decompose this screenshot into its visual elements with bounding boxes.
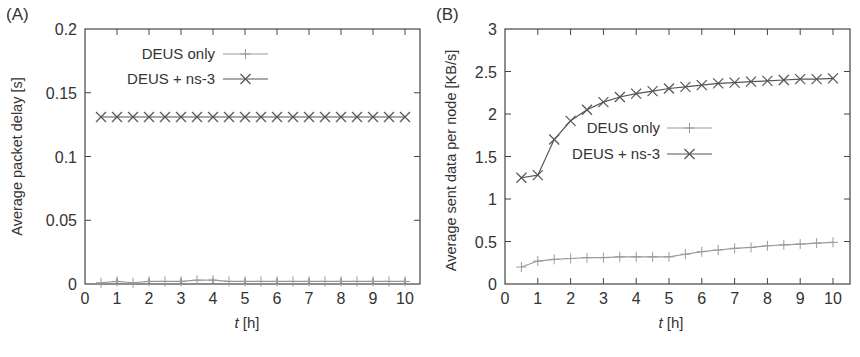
x-tick-label: 4 bbox=[209, 290, 218, 307]
legend-label: DEUS only bbox=[587, 119, 661, 136]
x-tick-label: 7 bbox=[305, 290, 314, 307]
x-tick-label: 9 bbox=[369, 290, 378, 307]
series-deus-only bbox=[516, 237, 838, 272]
series-line bbox=[521, 242, 833, 267]
x-axis-label: t [h] bbox=[234, 314, 259, 331]
legend-label: DEUS + ns-3 bbox=[127, 70, 215, 87]
x-tick-label: 4 bbox=[632, 290, 641, 307]
plot-frame bbox=[505, 29, 850, 284]
x-tick-label: 8 bbox=[337, 290, 346, 307]
legend-label: DEUS + ns-3 bbox=[572, 145, 660, 162]
y-tick-label: 0.2 bbox=[55, 21, 77, 38]
x-tick-label: 1 bbox=[533, 290, 542, 307]
panel-label: (B) bbox=[436, 5, 459, 24]
x-tick-label: 8 bbox=[763, 290, 772, 307]
y-tick-label: 2.5 bbox=[475, 64, 497, 81]
y-tick-label: 0.15 bbox=[46, 85, 77, 102]
x-tick-label: 5 bbox=[241, 290, 250, 307]
x-tick-label: 6 bbox=[273, 290, 282, 307]
y-tick-label: 0.05 bbox=[46, 212, 77, 229]
x-tick-label: 2 bbox=[566, 290, 575, 307]
legend: DEUS onlyDEUS + ns-3 bbox=[572, 119, 712, 162]
y-tick-label: 0 bbox=[68, 276, 77, 293]
panel-label: (A) bbox=[6, 5, 29, 24]
plot-frame bbox=[85, 29, 420, 284]
x-tick-label: 9 bbox=[796, 290, 805, 307]
x-tick-label: 1 bbox=[113, 290, 122, 307]
x-tick-label: 6 bbox=[697, 290, 706, 307]
y-axis-label: Average packet delay [s] bbox=[9, 77, 25, 236]
x-tick-label: 5 bbox=[665, 290, 674, 307]
panel-b: (B)01234567891000.511.522.53t [h]Average… bbox=[436, 5, 850, 331]
x-tick-label: 7 bbox=[730, 290, 739, 307]
x-axis-label: t [h] bbox=[658, 314, 683, 331]
y-tick-label: 1.5 bbox=[475, 149, 497, 166]
y-tick-label: 1 bbox=[488, 191, 497, 208]
x-tick-label: 10 bbox=[824, 290, 842, 307]
legend-label: DEUS only bbox=[142, 45, 216, 62]
x-tick-label: 0 bbox=[501, 290, 510, 307]
x-tick-label: 2 bbox=[145, 290, 154, 307]
y-tick-label: 0.1 bbox=[55, 149, 77, 166]
x-tick-label: 10 bbox=[396, 290, 414, 307]
y-tick-label: 2 bbox=[488, 106, 497, 123]
x-tick-label: 3 bbox=[599, 290, 608, 307]
y-tick-label: 0.5 bbox=[475, 234, 497, 251]
x-tick-label: 0 bbox=[81, 290, 90, 307]
series-deus-only bbox=[96, 275, 410, 288]
x-tick-label: 3 bbox=[177, 290, 186, 307]
panel-a: (A)01234567891000.050.10.150.2t [h]Avera… bbox=[6, 5, 420, 331]
y-tick-label: 0 bbox=[488, 276, 497, 293]
legend: DEUS onlyDEUS + ns-3 bbox=[127, 45, 268, 87]
y-tick-label: 3 bbox=[488, 21, 497, 38]
figure: (A)01234567891000.050.10.150.2t [h]Avera… bbox=[0, 0, 860, 357]
series-deus-ns3 bbox=[96, 112, 410, 122]
y-axis-label: Average sent data per node [KB/s] bbox=[443, 50, 459, 271]
